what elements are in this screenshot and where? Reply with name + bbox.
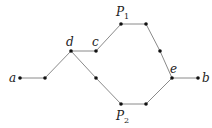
edge-p2b-e xyxy=(146,78,172,104)
node-d xyxy=(69,49,73,53)
node-a xyxy=(18,76,22,80)
label-c: c xyxy=(92,35,99,49)
node-n3 xyxy=(94,76,98,80)
node-p1a xyxy=(119,22,123,26)
node-p2b xyxy=(144,102,148,106)
label-b: b xyxy=(202,71,210,85)
label-p2-sub: 2 xyxy=(124,116,129,125)
edge-n3-p2a xyxy=(96,78,121,104)
labels: a b c d e P1 P2 xyxy=(9,5,210,125)
edge-c-p1a xyxy=(96,24,121,51)
node-e xyxy=(170,76,174,80)
node-p1b xyxy=(144,22,148,26)
node-n1 xyxy=(43,76,47,80)
edge-p1b-n2 xyxy=(146,24,160,51)
label-p1-sub: 1 xyxy=(124,12,129,21)
path-graph-diagram: a b c d e P1 P2 xyxy=(0,0,212,128)
node-c xyxy=(94,49,98,53)
node-n2 xyxy=(158,49,162,53)
node-p2a xyxy=(119,102,123,106)
node-b xyxy=(196,76,200,80)
label-d: d xyxy=(66,35,74,49)
label-p2: P2 xyxy=(115,109,129,125)
edge-d-n3 xyxy=(71,51,96,78)
label-p1: P1 xyxy=(115,5,129,21)
label-a: a xyxy=(9,71,16,85)
edge-n1-d xyxy=(45,51,71,78)
label-e: e xyxy=(170,62,177,76)
